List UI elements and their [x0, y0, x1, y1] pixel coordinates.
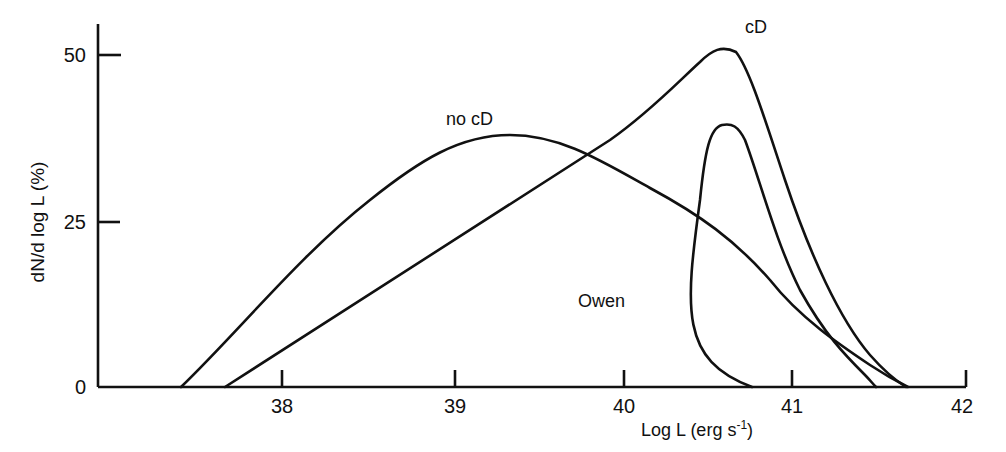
label-owen: Owen [578, 291, 625, 311]
y-tick-label-50: 50 [64, 44, 86, 66]
x-axis-title-main: Log L (erg s [641, 420, 736, 440]
x-axis-title-close: ) [747, 420, 753, 440]
y-tick-label-25: 25 [64, 211, 86, 233]
x-axis-title-sup: -1 [736, 418, 747, 432]
label-no-cd: no cD [446, 109, 493, 129]
x-tick-label-41: 41 [781, 395, 803, 417]
label-cd: cD [745, 17, 767, 37]
x-tick-label-40: 40 [613, 395, 635, 417]
curve-owen [691, 124, 876, 387]
axes [98, 24, 966, 387]
curve-cd [225, 49, 906, 387]
luminosity-function-chart: 50 25 0 38 39 40 41 42 Log L (erg s-1) d… [0, 0, 1006, 452]
y-axis-title: dN/d log L (%) [27, 162, 48, 283]
x-tick-label-39: 39 [444, 395, 466, 417]
x-axis-title: Log L (erg s-1) [641, 418, 753, 440]
x-tick-label-38: 38 [271, 395, 293, 417]
curve-no-cd [181, 135, 908, 387]
x-tick-label-42: 42 [951, 395, 973, 417]
y-tick-label-0: 0 [75, 376, 86, 398]
